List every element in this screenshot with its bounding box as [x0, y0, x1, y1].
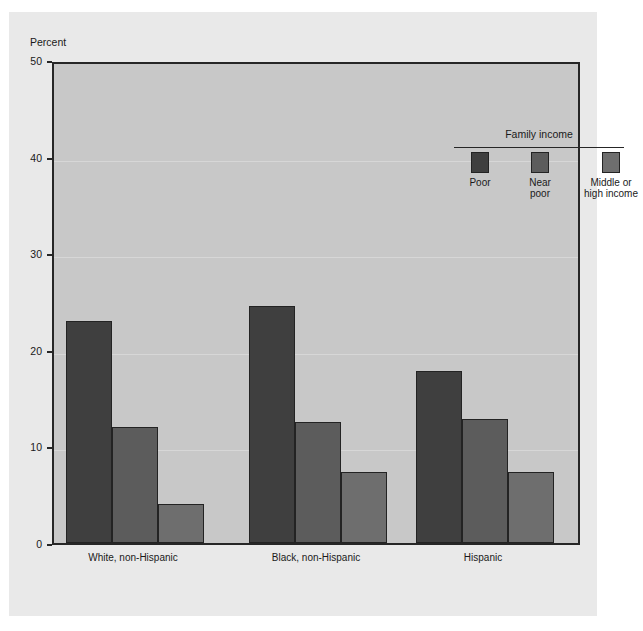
bar: [66, 321, 112, 543]
legend-swatch: [602, 152, 620, 173]
y-axis-label: Percent: [30, 36, 66, 48]
y-axis-tick-label: 30: [8, 249, 42, 260]
bar: [295, 422, 341, 543]
legend-swatch: [471, 152, 489, 173]
gridline: [54, 354, 578, 355]
y-axis-tick-label: 20: [8, 346, 42, 357]
legend-entry: Nearpoor: [512, 152, 568, 199]
y-axis-tick-label: 50: [8, 56, 42, 67]
x-axis-category-label: Black, non-Hispanic: [226, 552, 406, 563]
y-axis-tick-label: 10: [8, 442, 42, 453]
bar: [341, 472, 387, 543]
bar: [508, 472, 554, 543]
y-axis-tick-label: 40: [8, 153, 42, 164]
bar: [462, 419, 508, 543]
cropped-header-sliver: [0, 0, 606, 11]
bar: [158, 504, 204, 543]
legend-entry: Middle orhigh income: [572, 152, 643, 199]
legend-title: Family income: [450, 128, 628, 140]
legend-label: Middle orhigh income: [572, 177, 643, 199]
legend-divider: [454, 147, 624, 148]
x-axis-category-label: Hispanic: [393, 552, 573, 563]
bar: [112, 427, 158, 543]
x-axis-category-label: White, non-Hispanic: [43, 552, 223, 563]
y-axis-tick-label: 0: [8, 539, 42, 550]
legend-label: Nearpoor: [512, 177, 568, 199]
bar: [249, 306, 295, 543]
bar: [416, 371, 462, 543]
gridline: [54, 257, 578, 258]
chart-legend: Family income PoorNearpoorMiddle orhigh …: [450, 128, 628, 210]
legend-swatch: [531, 152, 549, 173]
legend-label: Poor: [452, 177, 508, 188]
plot-area: Family income PoorNearpoorMiddle orhigh …: [52, 62, 580, 545]
legend-entry: Poor: [452, 152, 508, 188]
